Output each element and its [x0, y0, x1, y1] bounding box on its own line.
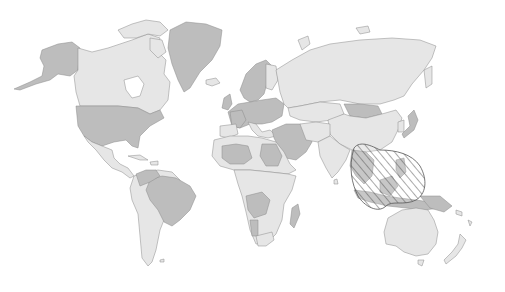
tasmania — [418, 260, 424, 266]
arctic-islands — [118, 20, 168, 38]
sahara-states — [222, 144, 252, 164]
vanuatu — [468, 220, 472, 226]
finland — [266, 64, 278, 90]
world-map-svg — [0, 0, 505, 292]
australia — [384, 208, 438, 256]
korea — [398, 120, 404, 132]
namibia — [250, 220, 258, 236]
uk-ireland — [222, 94, 232, 110]
kamchatka — [424, 66, 432, 88]
world-map — [0, 0, 505, 292]
new-zealand — [444, 234, 466, 264]
falklands — [160, 259, 164, 262]
sri-lanka — [334, 179, 338, 184]
cuba — [128, 155, 148, 160]
highlighted-region-southeast-asia — [351, 144, 425, 209]
iceland — [206, 78, 220, 86]
hispaniola — [150, 161, 158, 165]
alaska — [14, 42, 80, 90]
severnaya-zemlya — [356, 26, 370, 34]
solomon-islands — [456, 210, 462, 216]
russia — [276, 38, 436, 108]
japan — [402, 110, 418, 138]
madagascar — [290, 204, 300, 228]
novaya-zemlya — [298, 36, 310, 50]
